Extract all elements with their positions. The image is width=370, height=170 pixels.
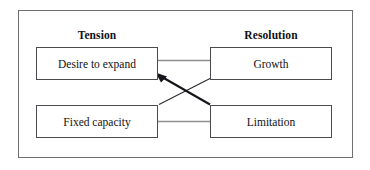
node-label: Desire to expand: [58, 58, 136, 70]
column-heading-tension: Tension: [36, 29, 158, 41]
node-limitation[interactable]: Limitation: [210, 105, 332, 138]
node-label: Fixed capacity: [63, 116, 130, 128]
node-growth[interactable]: Growth: [210, 47, 332, 80]
column-heading-resolution: Resolution: [210, 29, 332, 41]
node-label: Growth: [253, 58, 288, 70]
node-desire-to-expand[interactable]: Desire to expand: [36, 47, 158, 80]
node-fixed-capacity[interactable]: Fixed capacity: [36, 105, 158, 138]
node-label: Limitation: [247, 116, 296, 128]
diagram-canvas: Tension Resolution Desire to expand Grow…: [0, 0, 370, 170]
